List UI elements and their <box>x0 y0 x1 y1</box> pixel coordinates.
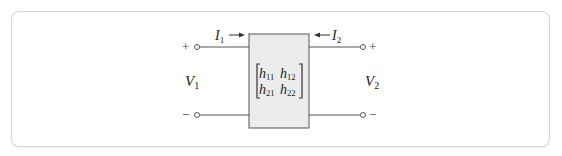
port1-plus-sign: + <box>182 39 189 54</box>
svg-text:V1: V1 <box>185 73 199 91</box>
current-i2-label: I2 <box>331 28 341 45</box>
two-port-diagram: + − + − I1 I2 V1 V2 h11 h12 h21 h22 <box>0 0 562 156</box>
port2-plus-terminal <box>361 45 366 50</box>
arrow-right-icon <box>229 33 245 38</box>
voltage-v1-label: V1 <box>185 73 199 91</box>
port2-minus-terminal <box>361 113 366 118</box>
two-port-network-box <box>249 34 309 128</box>
svg-text:I2: I2 <box>331 28 341 45</box>
current-i1-label: I1 <box>214 28 224 45</box>
port1-minus-terminal <box>195 113 200 118</box>
voltage-v2-label: V2 <box>365 73 379 91</box>
port1-minus-sign: − <box>182 107 189 122</box>
svg-text:V2: V2 <box>365 73 379 91</box>
port2-minus-sign: − <box>369 107 376 122</box>
arrow-left-icon <box>314 33 330 38</box>
port1-plus-terminal <box>195 45 200 50</box>
port2-plus-sign: + <box>369 39 376 54</box>
svg-text:I1: I1 <box>214 28 224 45</box>
